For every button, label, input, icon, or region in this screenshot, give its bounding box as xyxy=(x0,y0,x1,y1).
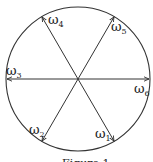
figure-caption: Figure 1 xyxy=(62,157,110,162)
vector-w5 xyxy=(78,17,114,79)
label-w5: ω5 xyxy=(111,19,127,36)
label-w6: ω6 xyxy=(134,81,150,98)
vector-diagram: ω4 ω5 ω3 ω6 ω2 ω1 Figure 1 xyxy=(0,0,153,162)
label-w4: ω4 xyxy=(48,12,64,29)
label-w1: ω1 xyxy=(95,126,111,143)
label-w2: ω2 xyxy=(29,122,45,139)
vector-w2 xyxy=(42,79,78,141)
label-w3: ω3 xyxy=(6,63,22,80)
